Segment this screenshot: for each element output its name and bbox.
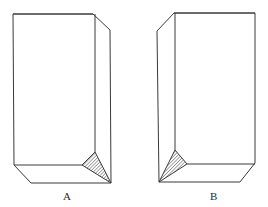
- block-b-hatched-facet: [159, 150, 187, 182]
- block-a: [13, 14, 111, 183]
- block-b-label: B: [210, 190, 217, 202]
- block-b: [157, 13, 255, 182]
- block-a-label: A: [63, 190, 71, 202]
- block-a-hatched-facet: [82, 152, 111, 183]
- diagram-canvas: A B: [0, 0, 268, 207]
